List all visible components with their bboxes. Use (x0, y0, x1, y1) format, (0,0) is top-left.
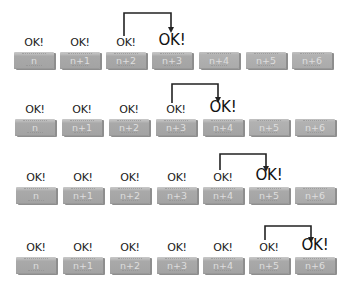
new-ok-label: OK! (203, 98, 243, 116)
packet-block: n+3 (152, 52, 192, 69)
packet-block: n+5 (249, 257, 289, 274)
packet-label: n+4 (199, 55, 239, 66)
packet-label: n+3 (156, 122, 196, 133)
packet-label: n (16, 190, 56, 201)
ok-label: OK! (156, 103, 196, 116)
packet-label: n+6 (295, 122, 335, 133)
ok-label: OK! (110, 241, 150, 254)
ok-label: OK! (110, 171, 150, 184)
packet-label: n+4 (203, 122, 243, 133)
packet-block: n (16, 257, 56, 274)
packet-block: n+6 (295, 257, 335, 274)
ok-label: OK! (106, 36, 146, 49)
ok-label: OK! (14, 36, 54, 49)
ok-label: OK! (62, 103, 102, 116)
packet-block: n+4 (203, 257, 243, 274)
ok-label: OK! (157, 241, 197, 254)
packet-label: n+5 (246, 55, 286, 66)
packet-block: n+3 (157, 257, 197, 274)
ok-label: OK! (249, 241, 289, 254)
packet-label: n+6 (295, 190, 335, 201)
packet-block: n+1 (63, 187, 103, 204)
packet-label: n+5 (249, 190, 289, 201)
new-ok-label: OK! (152, 31, 192, 49)
packet-label: n+2 (109, 122, 149, 133)
packet-label: n+6 (292, 55, 332, 66)
packet-label: n+6 (295, 260, 335, 271)
packet-label: n+1 (63, 260, 103, 271)
packet-block: n+2 (110, 257, 150, 274)
packet-block: n+6 (295, 187, 335, 204)
packet-label: n+1 (63, 190, 103, 201)
packet-block: n+2 (106, 52, 146, 69)
packet-label: n+3 (157, 190, 197, 201)
packet-block: n (15, 119, 55, 136)
packet-block: n+1 (60, 52, 100, 69)
packet-block: n+3 (157, 187, 197, 204)
packet-block: n+6 (292, 52, 332, 69)
packet-label: n+3 (152, 55, 192, 66)
ok-label: OK! (63, 171, 103, 184)
packet-label: n+5 (249, 260, 289, 271)
packet-label: n+4 (203, 260, 243, 271)
packet-block: n+4 (203, 119, 243, 136)
packet-block: n+3 (156, 119, 196, 136)
packet-label: n+1 (60, 55, 100, 66)
packet-block: n (16, 187, 56, 204)
packet-label: n (15, 122, 55, 133)
packet-block: n+2 (109, 119, 149, 136)
ok-label: OK! (203, 171, 243, 184)
ok-label: OK! (16, 171, 56, 184)
new-ok-label: OK! (295, 236, 335, 254)
ok-label: OK! (203, 241, 243, 254)
packet-label: n (14, 55, 54, 66)
packet-block: n+4 (203, 187, 243, 204)
packet-label: n+2 (110, 260, 150, 271)
packet-label: n+2 (110, 190, 150, 201)
packet-label: n+4 (203, 190, 243, 201)
ok-label: OK! (109, 103, 149, 116)
packet-label: n (16, 260, 56, 271)
new-ok-label: OK! (249, 166, 289, 184)
packet-label: n+1 (62, 122, 102, 133)
packet-block: n+5 (249, 119, 289, 136)
ok-label: OK! (60, 36, 100, 49)
ok-label: OK! (157, 171, 197, 184)
packet-block: n+5 (246, 52, 286, 69)
ok-label: OK! (63, 241, 103, 254)
packet-block: n+2 (110, 187, 150, 204)
packet-block: n+5 (249, 187, 289, 204)
packet-block: n+4 (199, 52, 239, 69)
ok-label: OK! (15, 103, 55, 116)
packet-label: n+5 (249, 122, 289, 133)
packet-label: n+3 (157, 260, 197, 271)
ok-label: OK! (16, 241, 56, 254)
packet-block: n+1 (63, 257, 103, 274)
packet-block: n (14, 52, 54, 69)
packet-label: n+2 (106, 55, 146, 66)
packet-block: n+1 (62, 119, 102, 136)
packet-block: n+6 (295, 119, 335, 136)
